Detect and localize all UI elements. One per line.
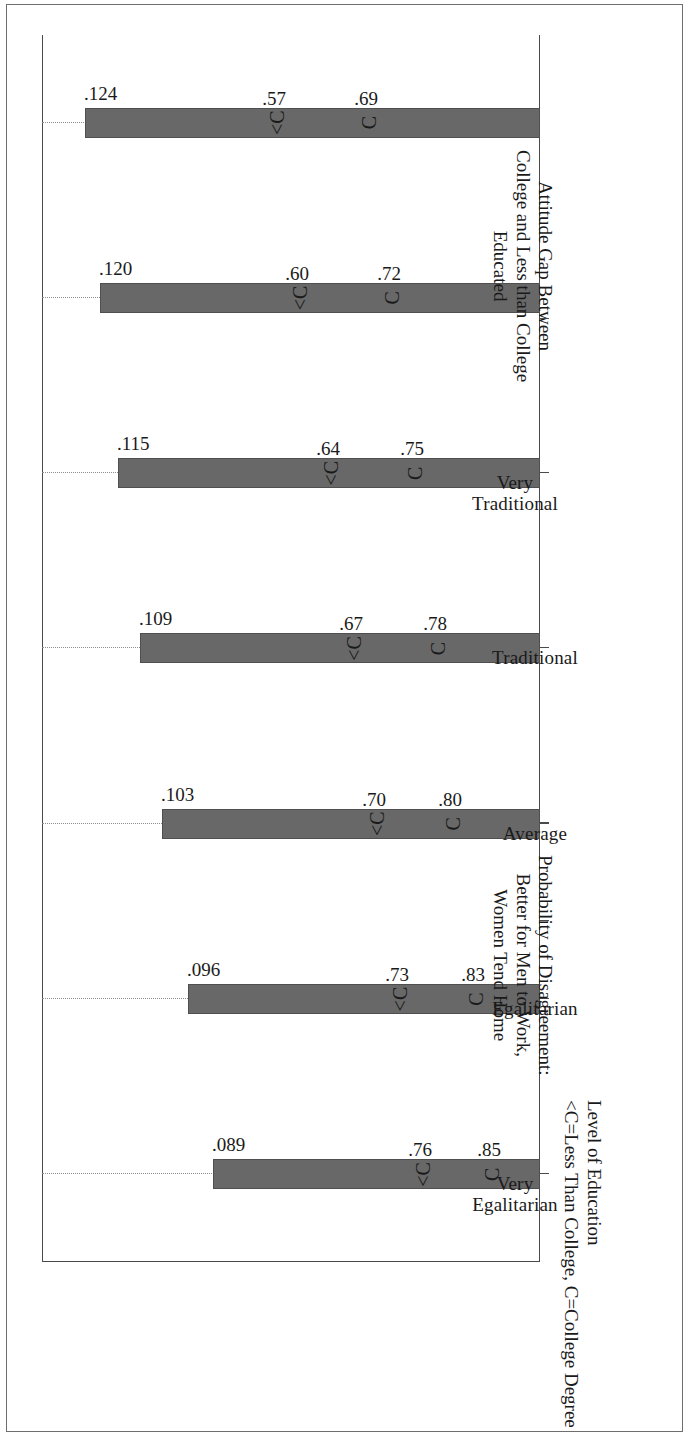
marker-value-less-than-college: .57 [263, 88, 287, 110]
marker-less-than-college: <C [367, 811, 387, 836]
marker-value-less-than-college: .64 [316, 438, 340, 460]
marker-value-less-than-college: .76 [408, 1140, 432, 1162]
title-line: College and Less than College [511, 150, 533, 382]
marker-value-college: .83 [462, 964, 486, 986]
axis-line-top [42, 35, 43, 1262]
title-line: Educated [489, 150, 511, 382]
category-label: VeryTraditional [472, 473, 558, 514]
bar-value-label: .120 [99, 258, 132, 280]
bar-axis-tick [540, 318, 549, 319]
rotated-figure-wrapper: .089.096.103.109.115.120.124 C.85C.83C.8… [42, 35, 540, 1262]
marker-less-than-college: <C [390, 987, 410, 1012]
marker-college: C [382, 291, 402, 304]
bar-value-label: .103 [161, 784, 194, 806]
marker-college: C [359, 116, 379, 129]
probability-axis-title: Probability of Disagreement:Better for M… [489, 855, 556, 1076]
title-line: Women Tend Home [489, 855, 511, 1076]
scanned-figure-page: .089.096.103.109.115.120.124 C.85C.83C.8… [0, 0, 689, 1437]
marker-college: C [428, 642, 448, 655]
bar [162, 809, 540, 839]
title-line: <C=Less Than College, C=College Degree [559, 1100, 582, 1428]
bar-value-label: .115 [117, 433, 150, 455]
category-label-line: Average [503, 824, 567, 845]
marker-value-less-than-college: .67 [339, 614, 363, 636]
marker-less-than-college: <C [321, 461, 341, 486]
title-line: Probability of Disagreement: [534, 855, 556, 1076]
category-label-line: Egalitarian [472, 1195, 558, 1216]
bar [140, 634, 540, 664]
title-line: Level of Education [582, 1100, 605, 1428]
figure-footnote: Level of Education<C=Less Than College, … [559, 1100, 605, 1428]
plot-area: .089.096.103.109.115.120.124 C.85C.83C.8… [42, 35, 540, 1262]
marker-value-college: .78 [423, 614, 447, 636]
marker-less-than-college: <C [344, 636, 364, 661]
bar-value-label: .096 [187, 959, 220, 981]
title-line: Attitude Gap Between [534, 150, 556, 382]
marker-less-than-college: <C [290, 286, 310, 311]
marker-value-less-than-college: .73 [385, 964, 409, 986]
category-label-line: Traditional [472, 494, 558, 515]
bar [100, 283, 540, 313]
category-label-line: Traditional [493, 649, 579, 670]
category-label: VeryEgalitarian [472, 1174, 558, 1215]
probability-axis-tick [540, 920, 549, 921]
bar [85, 108, 540, 138]
bar-value-label: .109 [139, 609, 172, 631]
category-label-line: Very [472, 473, 558, 494]
marker-less-than-college: <C [413, 1162, 433, 1187]
bar-value-label: .089 [212, 1134, 245, 1156]
marker-value-less-than-college: .60 [286, 263, 310, 285]
title-line: Better for Men to Work, [511, 855, 533, 1076]
category-label-line: Very [472, 1174, 558, 1195]
category-label: Average [503, 824, 567, 845]
figure-canvas: .089.096.103.109.115.120.124 C.85C.83C.8… [42, 35, 540, 1262]
bar-value-label: .124 [84, 83, 117, 105]
marker-value-college: .75 [400, 438, 424, 460]
bar-axis-title: Attitude Gap BetweenCollege and Less tha… [489, 150, 556, 382]
marker-college: C [443, 817, 463, 830]
axis-line-left [42, 1261, 540, 1262]
marker-value-less-than-college: .70 [362, 789, 386, 811]
marker-college: C [405, 467, 425, 480]
marker-less-than-college: <C [267, 110, 287, 135]
marker-value-college: .69 [354, 88, 378, 110]
marker-value-college: .85 [477, 1140, 501, 1162]
marker-value-college: .80 [439, 789, 463, 811]
marker-college: C [466, 992, 486, 1005]
category-label: Traditional [493, 649, 579, 670]
marker-value-college: .72 [377, 263, 401, 285]
